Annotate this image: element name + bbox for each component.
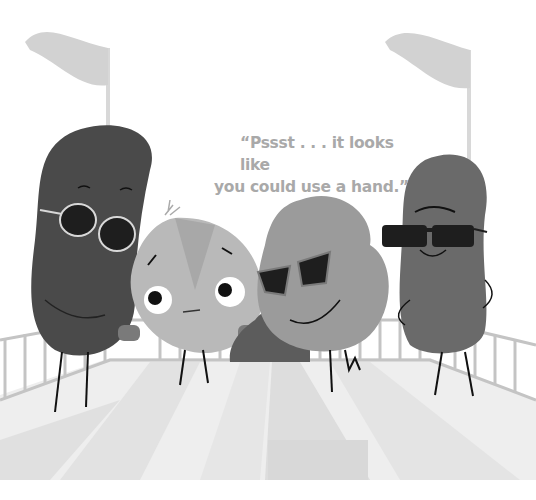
caption-line-2: you could use a hand.”: [210, 176, 410, 198]
deck-floor: [0, 358, 536, 480]
wayfarer-sunglasses: [382, 225, 487, 247]
caption-line-1: “Pssst . . . it looks like: [210, 132, 410, 176]
left-flag: [25, 32, 110, 128]
illustration: [0, 0, 536, 500]
dialogue-caption: “Pssst . . . it looks like you could use…: [210, 132, 410, 198]
storybook-page: “Pssst . . . it looks like you could use…: [0, 0, 536, 500]
